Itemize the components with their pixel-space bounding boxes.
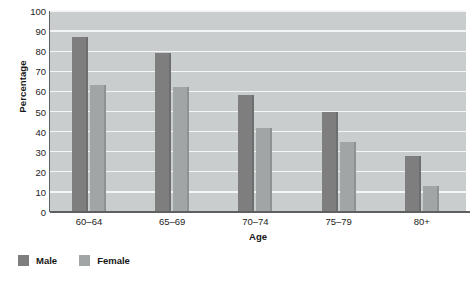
bar-face [90,85,104,212]
y-axis-tick-label: 100 [0,6,46,17]
bar-female-70_74 [256,128,272,212]
bar-face [155,53,169,212]
bar-face [72,37,86,212]
chart-legend: MaleFemale [18,255,130,266]
legend-label: Male [36,255,57,266]
legend-label: Female [97,255,130,266]
y-axis-tick-label: 50 [0,106,46,117]
bar-face [340,142,354,212]
bar-female-75_79 [340,142,356,212]
y-axis-tick-labels: 0102030405060708090100 [0,0,46,282]
bar-side-shadow [354,142,356,212]
plot-area [50,11,466,212]
bar-side-shadow [86,37,88,212]
y-axis-tick-label: 60 [0,86,46,97]
x-axis-tick-label: 80+ [414,216,430,227]
x-axis-tick-label: 60–64 [76,216,102,227]
bar-side-shadow [419,156,421,212]
bar-side-shadow [270,128,272,212]
bar-male-80+ [405,156,421,212]
gridline [50,30,466,31]
bar-side-shadow [437,186,439,212]
bar-side-shadow [104,85,106,212]
bar-face [256,128,270,212]
bar-side-shadow [169,53,171,212]
bar-side-shadow [336,112,338,213]
bar-male-60_64 [72,37,88,212]
x-axis-tick-label: 75–79 [325,216,351,227]
legend-item-female[interactable]: Female [79,255,130,266]
gridline [50,91,466,92]
bar-chart-figure: Percentage 0102030405060708090100 60–646… [0,0,476,282]
y-axis-tick-label: 0 [0,207,46,218]
bar-face [423,186,437,212]
bar-side-shadow [187,87,189,212]
bar-female-60_64 [90,85,106,212]
y-axis-tick-label: 70 [0,66,46,77]
y-axis-tick-label: 30 [0,146,46,157]
bar-male-70_74 [238,95,254,212]
bar-female-65_69 [173,87,189,212]
gridline [50,71,466,72]
legend-swatch-female [79,255,90,266]
gridline [50,10,466,11]
y-axis-tick-label: 10 [0,186,46,197]
legend-item-male[interactable]: Male [18,255,57,266]
legend-swatch-male [18,255,29,266]
bar-face [322,112,336,213]
bar-female-80+ [423,186,439,212]
y-axis-tick-label: 40 [0,126,46,137]
x-axis-title: Age [50,231,466,242]
y-axis-tick-label: 80 [0,46,46,57]
x-axis-tick-label: 65–69 [159,216,185,227]
bar-male-75_79 [322,112,338,213]
x-axis-line [50,211,470,213]
y-axis-tick-label: 20 [0,166,46,177]
gridline [50,111,466,112]
bar-face [173,87,187,212]
x-axis-tick-label: 70–74 [242,216,268,227]
y-axis-tick-label: 90 [0,26,46,37]
bar-male-65_69 [155,53,171,212]
bar-face [405,156,419,212]
bar-face [238,95,252,212]
bar-side-shadow [252,95,254,212]
gridline [50,51,466,52]
